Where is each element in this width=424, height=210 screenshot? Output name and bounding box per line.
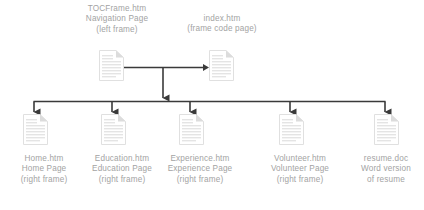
label-resume-line3: of resume xyxy=(333,175,424,185)
label-experience: Experience.htm Experience Page (right fr… xyxy=(147,154,253,185)
label-experience-line3: (right frame) xyxy=(147,175,253,185)
document-icon-experience[interactable] xyxy=(179,114,204,145)
label-experience-line2: Experience Page xyxy=(147,164,253,174)
document-icon-education[interactable] xyxy=(101,114,126,145)
label-resume-line1: resume.doc xyxy=(333,154,424,164)
document-icon-index[interactable] xyxy=(209,50,234,81)
document-icon-resume[interactable] xyxy=(374,114,399,145)
label-tocframe-line1: TOCFrame.htm xyxy=(47,4,187,14)
label-experience-line1: Experience.htm xyxy=(147,154,253,164)
label-index: index.htm (frame code page) xyxy=(152,14,292,35)
document-icon-tocframe[interactable] xyxy=(99,50,124,81)
document-icon-home[interactable] xyxy=(23,114,48,145)
connector-drop-arrows xyxy=(34,102,385,113)
label-resume-line2: Word version xyxy=(333,164,424,174)
label-index-line2: (frame code page) xyxy=(152,24,292,34)
document-icon-volunteer[interactable] xyxy=(279,114,304,145)
diagram-canvas: TOCFrame.htm Navigation Page (left frame… xyxy=(0,0,424,210)
label-index-line1: index.htm xyxy=(152,14,292,24)
label-resume: resume.doc Word version of resume xyxy=(333,154,424,185)
